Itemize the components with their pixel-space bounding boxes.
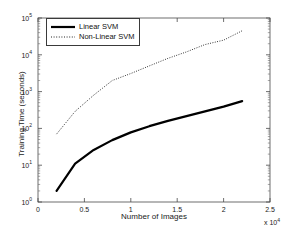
series-line-linear-svm (57, 101, 243, 191)
x-multiplier-exponent: 4 (277, 217, 280, 223)
x-multiplier-mantissa: x 10 (264, 219, 277, 226)
legend-item-nonlinear-svm: Non-Linear SVM (50, 32, 134, 42)
x-axis-label: Number of Images (38, 213, 270, 221)
y-tick-label: 100 (8, 199, 32, 206)
chart-plot-area (0, 0, 288, 236)
x-tick-label: 2 (222, 206, 226, 213)
y-axis-label: Training Time (seconds) (18, 44, 26, 184)
legend-item-linear-svm: Linear SVM (50, 22, 134, 32)
chart-legend: Linear SVM Non-Linear SVM (46, 18, 140, 46)
x-tick-label: 0.5 (80, 206, 90, 213)
legend-line-dotted-icon (50, 32, 76, 42)
series-line-non-linear-svm (57, 31, 243, 134)
legend-label-nonlinear-svm: Non-Linear SVM (79, 33, 134, 41)
x-axis-multiplier-label: x 104 (264, 219, 280, 226)
legend-line-solid-icon (50, 22, 76, 32)
legend-label-linear-svm: Linear SVM (79, 23, 118, 31)
figure-canvas: 00.511.522.5 100101102103104105 Number o… (0, 0, 288, 236)
y-tick-label: 105 (8, 15, 32, 22)
x-tick-label: 0 (36, 206, 40, 213)
x-tick-label: 2.5 (265, 206, 275, 213)
data-series-group (57, 31, 243, 191)
